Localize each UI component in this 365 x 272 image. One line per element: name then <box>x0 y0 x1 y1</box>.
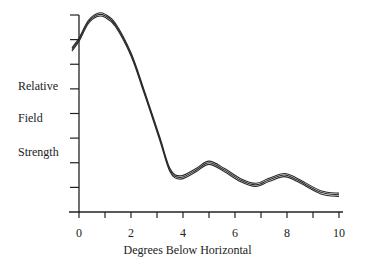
series-line <box>72 16 339 196</box>
x-tick-label: 6 <box>232 226 238 240</box>
x-tick-label: 10 <box>333 226 345 240</box>
y-axis-label-line2: Field <box>18 111 43 126</box>
data-series <box>72 13 339 197</box>
x-axis-ticks: 0246810 <box>76 212 345 240</box>
x-tick-label: 2 <box>128 226 134 240</box>
y-axis-label-line1: Relative <box>18 79 58 94</box>
series-line <box>72 13 339 193</box>
x-axis-label: Degrees Below Horizontal <box>0 243 365 258</box>
axes <box>69 15 343 213</box>
x-tick-label: 4 <box>180 226 186 240</box>
x-tick-label: 0 <box>76 226 82 240</box>
chart-canvas: 0246810 <box>0 0 365 272</box>
y-axis-label-line3: Strength <box>18 145 59 160</box>
x-tick-label: 8 <box>284 226 290 240</box>
series-line <box>72 14 339 194</box>
